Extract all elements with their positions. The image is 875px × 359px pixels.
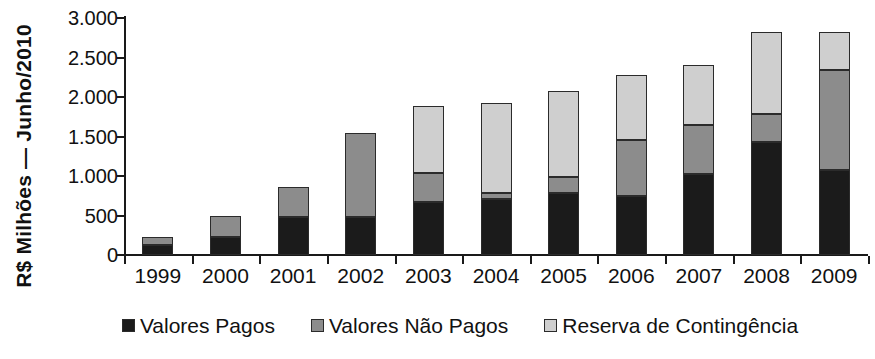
bar-segment[interactable]: [142, 245, 173, 255]
y-axis-tick-mark: [117, 175, 125, 177]
bar-segment[interactable]: [278, 187, 309, 217]
y-axis-tick-label: 1.500: [50, 125, 118, 148]
bar-segment[interactable]: [819, 70, 850, 170]
y-axis-tick-label: 500: [50, 204, 118, 227]
x-axis-tick-mark: [665, 256, 667, 264]
bar-group[interactable]: [683, 65, 714, 255]
bar-group[interactable]: [819, 32, 850, 255]
bar-group[interactable]: [142, 237, 173, 255]
bar-group[interactable]: [278, 187, 309, 255]
x-axis-tick-label: 2009: [811, 264, 858, 288]
x-axis-tick-label: 2003: [405, 264, 452, 288]
legend-swatch-icon: [122, 319, 135, 332]
x-axis-tick-label: 2004: [473, 264, 520, 288]
bar-segment[interactable]: [345, 217, 376, 255]
bar-group[interactable]: [548, 91, 579, 255]
legend-swatch-icon: [311, 319, 324, 332]
bar-segment[interactable]: [616, 75, 647, 141]
x-axis-tick-labels: 1999200020012002200320042005200620072008…: [124, 264, 868, 296]
bar-segment[interactable]: [548, 193, 579, 255]
x-axis-tick-mark: [395, 256, 397, 264]
bar-group[interactable]: [210, 216, 241, 255]
bar-segment[interactable]: [616, 196, 647, 255]
x-axis-tick-label: 2006: [608, 264, 655, 288]
bar-group[interactable]: [345, 133, 376, 255]
chart-legend: Valores PagosValores Não PagosReserva de…: [80, 308, 840, 342]
bar-segment[interactable]: [683, 174, 714, 255]
bar-segment[interactable]: [481, 199, 512, 255]
bar-segment[interactable]: [819, 32, 850, 70]
bar-segment[interactable]: [210, 216, 241, 237]
y-axis-tick-labels: 05001.0001.5002.0002.5003.000: [50, 0, 118, 270]
x-axis-tick-mark: [530, 256, 532, 264]
y-axis-tick-mark: [117, 96, 125, 98]
bar-segment[interactable]: [548, 91, 579, 176]
bar-segment[interactable]: [819, 170, 850, 255]
bar-segment[interactable]: [413, 202, 444, 255]
x-axis-tick-label: 1999: [134, 264, 181, 288]
x-axis-tick-label: 2005: [540, 264, 587, 288]
bar-segment[interactable]: [683, 125, 714, 173]
bar-group[interactable]: [413, 106, 444, 255]
legend-item[interactable]: Valores Pagos: [122, 315, 275, 336]
bar-segment[interactable]: [481, 193, 512, 199]
y-axis-tick-label: 2.000: [50, 86, 118, 109]
bar-group[interactable]: [481, 103, 512, 255]
y-axis-tick-label: 3.000: [50, 7, 118, 30]
y-axis-tick-mark: [117, 57, 125, 59]
legend-label: Valores Não Pagos: [329, 315, 508, 336]
x-axis-tick-mark: [327, 256, 329, 264]
x-axis-tick-mark: [800, 256, 802, 264]
bar-group[interactable]: [751, 32, 782, 255]
y-axis-tick-mark: [117, 136, 125, 138]
x-axis-tick-label: 2000: [202, 264, 249, 288]
x-axis-tick-mark: [192, 256, 194, 264]
legend-label: Valores Pagos: [140, 315, 275, 336]
bar-segment[interactable]: [683, 65, 714, 125]
x-axis-tick-label: 2001: [270, 264, 317, 288]
bar-segment[interactable]: [278, 217, 309, 255]
x-axis-tick-mark: [868, 256, 870, 264]
legend-swatch-icon: [544, 319, 557, 332]
bar-segment[interactable]: [751, 142, 782, 255]
legend-item[interactable]: Reserva de Contingência: [544, 315, 798, 336]
y-axis-tick-label: 1.000: [50, 165, 118, 188]
bar-segment[interactable]: [142, 237, 173, 245]
bar-group[interactable]: [616, 75, 647, 255]
x-axis-tick-label: 2007: [676, 264, 723, 288]
bar-segment[interactable]: [751, 114, 782, 142]
bar-segment[interactable]: [616, 140, 647, 195]
y-axis-tick-label: 0: [50, 244, 118, 267]
bar-segment[interactable]: [481, 103, 512, 192]
legend-label: Reserva de Contingência: [562, 315, 798, 336]
y-axis-tick-mark: [117, 17, 125, 19]
y-axis-tick-mark: [117, 215, 125, 217]
x-axis-tick-label: 2008: [743, 264, 790, 288]
plot-area: [124, 18, 868, 255]
y-axis-tick-label: 2.500: [50, 46, 118, 69]
x-axis-tick-mark: [733, 256, 735, 264]
x-axis-tick-mark: [259, 256, 261, 264]
bar-segment[interactable]: [210, 237, 241, 255]
y-axis-title: R$ Milhões — Junho/2010: [8, 6, 40, 306]
x-axis-tick-mark: [124, 256, 126, 264]
bar-segment[interactable]: [413, 106, 444, 172]
bar-segment[interactable]: [751, 32, 782, 113]
stacked-bar-chart: R$ Milhões — Junho/2010 05001.0001.5002.…: [0, 0, 875, 359]
bar-segment[interactable]: [413, 173, 444, 202]
x-axis-tick-label: 2002: [337, 264, 384, 288]
bar-segment[interactable]: [548, 177, 579, 194]
x-axis-tick-mark: [597, 256, 599, 264]
x-axis-tick-mark: [462, 256, 464, 264]
legend-item[interactable]: Valores Não Pagos: [311, 315, 508, 336]
bar-segment[interactable]: [345, 133, 376, 217]
